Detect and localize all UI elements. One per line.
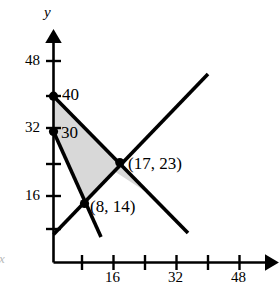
- x-axis-label-cropped: x: [0, 252, 5, 265]
- x-tick-label-16: 16: [105, 270, 120, 285]
- y-tick-label-32: 32: [25, 120, 40, 135]
- point-dot-17-23: [115, 158, 124, 167]
- point-dot-8-14: [80, 199, 89, 208]
- point-dot-40: [49, 92, 58, 101]
- y-tick-label-16: 16: [25, 188, 40, 203]
- coordinate-plane-graphic: [0, 0, 280, 292]
- graph-figure: y 48 32 16 16 32 48 40 30 (8, 14) (17, 2…: [0, 0, 280, 292]
- y-tick-label-48: 48: [25, 53, 40, 68]
- x-tick-label-48: 48: [231, 270, 246, 285]
- point-label-30: 30: [61, 124, 78, 141]
- point-label-8-14: (8, 14): [90, 198, 135, 215]
- point-label-40: 40: [62, 86, 79, 103]
- point-label-17-23: (17, 23): [128, 155, 182, 172]
- x-tick-label-32: 32: [168, 270, 183, 285]
- point-dot-30: [49, 127, 58, 136]
- y-axis-label: y: [44, 5, 51, 20]
